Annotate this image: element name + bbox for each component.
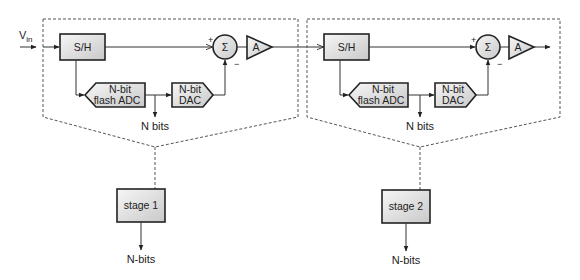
- svg-text:flash ADC: flash ADC: [358, 94, 405, 106]
- pipelined-adc-diagram: Vin S/H N-bit flash ADC N bits N-bit DAC: [0, 0, 580, 280]
- dac-2: N-bit DAC: [435, 83, 476, 107]
- stage-2-label: stage 2: [389, 200, 424, 212]
- sh2-to-adc-wire: [340, 60, 348, 95]
- summer-2: Σ + −: [471, 35, 502, 69]
- stage-2-detail: S/H N-bit flash ADC N bits N-bit DAC Σ +…: [307, 19, 560, 147]
- sample-hold-2: S/H: [324, 34, 369, 60]
- dac-1: N-bit DAC: [172, 83, 213, 107]
- stage-2-output-label: N-bits: [392, 254, 421, 266]
- sh1-to-adc-wire: [76, 60, 84, 95]
- n-bits-label-1: N bits: [141, 120, 170, 132]
- stage-1-output-label: N-bits: [127, 253, 156, 265]
- amplifier-2: A: [509, 36, 534, 59]
- dac2-to-summer-wire: [476, 60, 488, 95]
- svg-text:Σ: Σ: [222, 41, 229, 53]
- svg-text:−: −: [497, 59, 502, 69]
- amplifier-1: A: [247, 36, 272, 59]
- vin-label: Vin: [19, 29, 33, 44]
- svg-text:+: +: [471, 35, 476, 45]
- svg-text:−: −: [234, 59, 239, 69]
- stage-1-label: stage 1: [124, 199, 159, 211]
- stage-1-summary: stage 1 N-bits: [117, 147, 165, 265]
- stage-1-detail: Vin S/H N-bit flash ADC N bits N-bit DAC: [19, 19, 323, 147]
- sample-hold-1: S/H: [60, 34, 105, 60]
- summer-1: Σ + −: [208, 35, 239, 69]
- svg-text:DAC: DAC: [179, 94, 202, 106]
- n-bits-label-2: N bits: [406, 120, 435, 132]
- svg-text:DAC: DAC: [442, 94, 465, 106]
- flash-adc-1: N-bit flash ADC: [85, 83, 145, 107]
- stage-2-summary: stage 2 N-bits: [382, 147, 430, 266]
- dac1-to-summer-wire: [213, 60, 225, 95]
- svg-text:Σ: Σ: [485, 41, 492, 53]
- svg-text:A: A: [252, 41, 259, 53]
- svg-text:S/H: S/H: [338, 41, 356, 53]
- svg-text:A: A: [514, 41, 521, 53]
- svg-text:+: +: [208, 35, 213, 45]
- svg-text:S/H: S/H: [74, 41, 92, 53]
- flash-adc-2: N-bit flash ADC: [349, 83, 408, 107]
- svg-text:flash ADC: flash ADC: [94, 94, 141, 106]
